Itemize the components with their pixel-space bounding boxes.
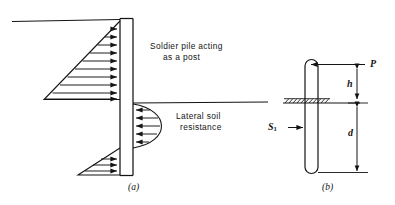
- figure-canvas: [0, 0, 395, 205]
- ground-hatching-icon: [284, 99, 330, 104]
- height-label-h: h: [347, 78, 353, 89]
- soldier-pile-label-line2: as a post: [163, 52, 200, 63]
- depth-label-d: d: [348, 127, 353, 138]
- lateral-soil-resistance-label-line2: resistance: [180, 122, 222, 133]
- ground-line-left: [12, 20, 120, 22]
- toe-reaction-wedge: [78, 148, 120, 175]
- caption-panel-b: (b): [322, 182, 333, 192]
- soldier-pile-label-line1: Soldier pile acting: [150, 41, 223, 52]
- load-label-P: P: [370, 58, 376, 69]
- figure-root: Soldier pile acting as a post Lateral so…: [0, 0, 395, 205]
- s1-subscript: 1: [274, 125, 277, 132]
- soldier-pile-column: [120, 19, 133, 176]
- d-dimension-line: [318, 107, 368, 173]
- caption-panel-a: (a): [128, 182, 139, 192]
- pile-member-b: [305, 60, 318, 174]
- panel-a-group: [12, 19, 268, 176]
- panel-b-group: [283, 60, 368, 174]
- active-pressure-wedge: [44, 21, 120, 100]
- passive-resistance-bulb: [133, 104, 162, 148]
- ground-line-right: [133, 102, 268, 103]
- soil-resistance-label-s1: S1: [268, 121, 277, 132]
- lateral-soil-resistance-label-line1: Lateral soil: [176, 111, 221, 122]
